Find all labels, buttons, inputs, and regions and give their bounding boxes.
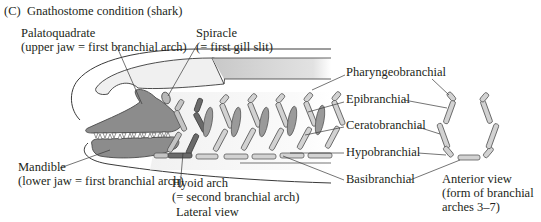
anterior-view-label: Anterior view (form of branchial arches … bbox=[442, 172, 534, 214]
spiracle-name: Spiracle bbox=[196, 26, 273, 40]
basibranchial-label: Basibranchial bbox=[346, 172, 415, 186]
anterior-view-note-2: arches 3–7) bbox=[442, 200, 534, 214]
epibranchial-label: Epibranchial bbox=[346, 92, 410, 106]
title-text: Gnathostome condition (shark) bbox=[27, 4, 183, 18]
hyoid-note: (= second branchial arch) bbox=[172, 190, 299, 204]
spiracle-note: (= first gill slit) bbox=[196, 40, 273, 54]
hyoid-arch-label: Hyoid arch (= second branchial arch) bbox=[172, 176, 299, 204]
ceratobranchial-label: Ceratobranchial bbox=[346, 118, 426, 132]
mandible-label: Mandible (lower jaw = first branchial ar… bbox=[18, 160, 184, 188]
anterior-view-name: Anterior view bbox=[442, 172, 534, 186]
mandible-name: Mandible bbox=[18, 160, 184, 174]
palatoquadrate-name: Palatoquadrate bbox=[21, 26, 187, 40]
palatoquadrate-label: Palatoquadrate (upper jaw = first branch… bbox=[21, 26, 187, 54]
lateral-view-label: Lateral view bbox=[176, 205, 239, 219]
shark-branchial-arches-diagram: (C) Gnathostome condition (shark) Palato… bbox=[0, 0, 541, 222]
spiracle-label: Spiracle (= first gill slit) bbox=[196, 26, 273, 54]
palatoquadrate-note: (upper jaw = first branchial arch) bbox=[21, 40, 187, 54]
pharyngeobranchial-label: Pharyngeobranchial bbox=[346, 65, 446, 79]
panel-letter: (C) bbox=[4, 4, 21, 18]
hyoid-name: Hyoid arch bbox=[172, 176, 299, 190]
mandible-note: (lower jaw = first branchial arch) bbox=[18, 174, 184, 188]
branchial-arch-anterior-view bbox=[437, 91, 500, 160]
hypobranchial-label: Hypobranchial bbox=[346, 145, 420, 159]
figure-title: (C) Gnathostome condition (shark) bbox=[4, 4, 182, 18]
anterior-view-note-1: (form of branchial bbox=[442, 186, 534, 200]
